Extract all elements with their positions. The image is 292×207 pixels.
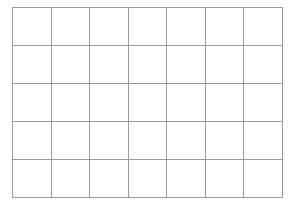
grid-cell (129, 84, 168, 122)
empty-grid (12, 7, 283, 198)
grid-cell (52, 122, 91, 160)
grid-cell (90, 84, 129, 122)
grid-cell (167, 160, 206, 198)
grid-cell (206, 84, 245, 122)
grid-cell (13, 46, 52, 84)
grid-cell (52, 84, 91, 122)
grid-cell (129, 122, 168, 160)
grid-cell (206, 160, 245, 198)
grid-cell (13, 84, 52, 122)
grid-cell (129, 160, 168, 198)
grid-cell (90, 160, 129, 198)
grid-cell (244, 122, 283, 160)
grid-cell (167, 84, 206, 122)
grid-cell (206, 8, 245, 46)
grid-cell (244, 84, 283, 122)
grid-cell (244, 8, 283, 46)
grid-cell (90, 46, 129, 84)
grid-cell (129, 46, 168, 84)
grid-cell (167, 46, 206, 84)
grid-cell (167, 122, 206, 160)
grid-cell (52, 8, 91, 46)
grid-cell (244, 160, 283, 198)
grid-cell (129, 8, 168, 46)
grid-cell (244, 46, 283, 84)
grid-cell (13, 8, 52, 46)
grid-cell (13, 122, 52, 160)
grid-cell (167, 8, 206, 46)
grid-cell (52, 160, 91, 198)
grid-cell (13, 160, 52, 198)
grid-cell (206, 46, 245, 84)
grid-cell (90, 122, 129, 160)
grid-cell (90, 8, 129, 46)
grid-cell (52, 46, 91, 84)
grid-cell (206, 122, 245, 160)
